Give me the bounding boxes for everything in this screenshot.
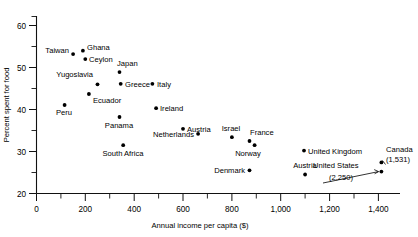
label-israel: Israel — [222, 124, 241, 133]
label-italy: Italy — [157, 80, 171, 89]
point-yugoslavia[interactable] — [96, 82, 100, 86]
y-axis — [29, 16, 37, 194]
label-france: France — [250, 128, 274, 137]
y-ticklabel-60: 60 — [17, 22, 27, 31]
point-france[interactable] — [248, 139, 252, 143]
label-japan: Japan — [117, 59, 138, 68]
label-south-africa: South Africa — [103, 149, 145, 158]
x-ticklabel-1200: 1,200 — [319, 205, 340, 214]
point-norway[interactable] — [253, 143, 257, 147]
label-ghana: Ghana — [87, 43, 111, 52]
label-norway: Norway — [235, 149, 261, 158]
point-japan[interactable] — [118, 70, 122, 74]
point-austria-2[interactable] — [303, 173, 307, 177]
us-callout-name: United States — [313, 161, 359, 170]
point-ireland[interactable] — [154, 106, 158, 110]
point-ghana[interactable] — [81, 49, 85, 53]
point-peru[interactable] — [63, 103, 67, 107]
point-ecuador[interactable] — [87, 92, 91, 96]
label-united-kingdom: United Kingdom — [308, 147, 362, 156]
point-panama[interactable] — [118, 115, 122, 119]
x-axis — [37, 194, 401, 202]
point-labels: Taiwan Ghana Ceylon Yugoslavia Ecuador P… — [45, 43, 362, 175]
label-netherlands: Netherlands — [153, 130, 194, 139]
point-greece[interactable] — [119, 82, 123, 86]
y-ticklabel-30: 30 — [17, 148, 27, 157]
canada-callout: Canada (1,531) — [383, 145, 414, 165]
x-axis-title: Annual income per capita ($) — [151, 221, 249, 230]
y-ticklabel-50: 50 — [17, 64, 27, 73]
point-taiwan[interactable] — [71, 52, 75, 56]
label-peru: Peru — [56, 108, 72, 117]
x-ticklabel-600: 600 — [176, 205, 190, 214]
y-axis-title: Percent spent for food — [2, 68, 11, 143]
y-ticklabel-20: 20 — [17, 190, 27, 199]
point-italy[interactable] — [151, 82, 155, 86]
point-ceylon[interactable] — [83, 57, 87, 61]
x-ticklabel-1000: 1,000 — [270, 205, 291, 214]
label-ceylon: Ceylon — [89, 55, 113, 64]
point-united-states[interactable] — [380, 170, 384, 174]
label-panama: Panama — [105, 121, 134, 130]
label-ecuador: Ecuador — [93, 96, 122, 105]
canada-callout-name: Canada — [386, 145, 413, 154]
point-united-kingdom[interactable] — [302, 149, 306, 153]
y-ticklabel-40: 40 — [17, 106, 27, 115]
chart-canvas: 60 50 40 30 20 0 200 400 600 800 1,000 1… — [0, 0, 418, 237]
x-ticklabel-1400: 1,400 — [368, 205, 389, 214]
canada-callout-value: (1,531) — [386, 155, 411, 164]
x-ticklabel-400: 400 — [127, 205, 141, 214]
x-ticklabel-200: 200 — [78, 205, 92, 214]
x-ticklabel-0: 0 — [34, 205, 39, 214]
point-israel[interactable] — [230, 135, 234, 139]
point-south-africa[interactable] — [121, 143, 125, 147]
scatter-chart: 60 50 40 30 20 0 200 400 600 800 1,000 1… — [0, 0, 418, 237]
label-taiwan: Taiwan — [45, 46, 69, 55]
point-denmark[interactable] — [248, 168, 252, 172]
label-ireland: Ireland — [160, 104, 183, 113]
x-ticklabel-800: 800 — [225, 205, 239, 214]
united-states-callout: United States (2,250) — [313, 161, 379, 183]
label-denmark: Denmark — [214, 166, 245, 175]
label-yugoslavia: Yugoslavia — [56, 70, 94, 79]
label-greece: Greece — [125, 80, 150, 89]
